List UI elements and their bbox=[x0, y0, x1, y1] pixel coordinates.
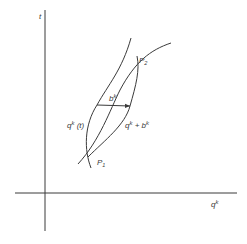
q-axis-label: qk bbox=[211, 199, 219, 209]
curve-flat bbox=[78, 43, 171, 164]
q-of-t-label: qk (t) bbox=[67, 120, 85, 130]
b-arrow bbox=[97, 105, 130, 106]
p2-label: P2 bbox=[139, 56, 147, 66]
p1-label: P1 bbox=[97, 158, 105, 168]
q-plus-b-label: qk + bk bbox=[125, 120, 150, 130]
curve-q-of-t bbox=[86, 38, 131, 168]
t-axis-label: t bbox=[39, 12, 42, 21]
b-arrow-label: bk bbox=[109, 93, 117, 103]
diagram: t qk bk P2 P1 qk (t) qk + bk bbox=[0, 0, 247, 244]
